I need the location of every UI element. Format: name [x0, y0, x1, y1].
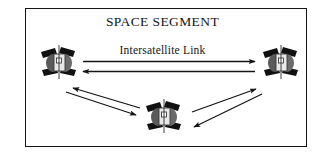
- satellite-right: [261, 43, 301, 81]
- satellite-icon: [146, 99, 181, 133]
- space-segment-diagram: SPACE SEGMENT Intersatellite Link: [0, 0, 325, 155]
- satellite-left: [39, 43, 79, 81]
- arrow-center-to-right: [192, 89, 256, 112]
- satellite-icon: [263, 45, 298, 79]
- satellite-icon: [41, 45, 76, 79]
- satellite-center: [144, 97, 184, 135]
